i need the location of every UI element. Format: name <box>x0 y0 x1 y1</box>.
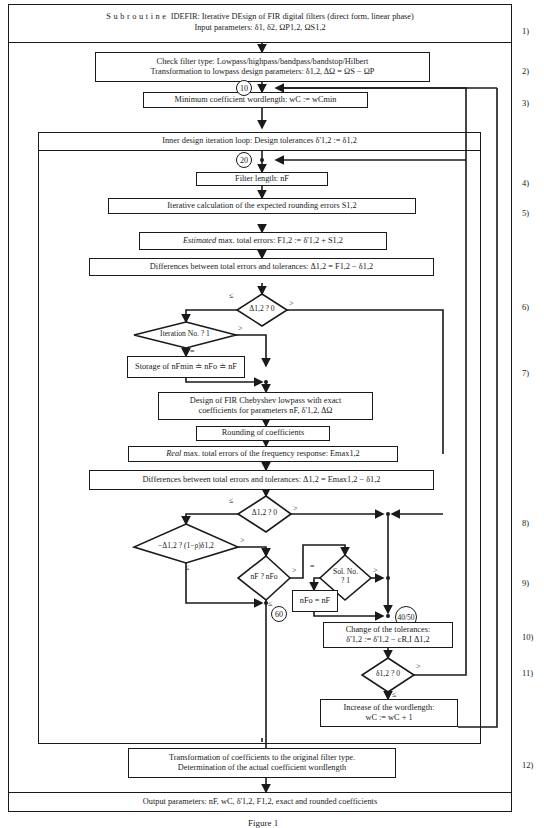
step-number-2: 2) <box>522 66 529 76</box>
filter-length-box: Filter length: nF <box>196 172 328 186</box>
label-gt-11: > <box>416 663 421 671</box>
estimated-label: Estimated <box>183 236 216 245</box>
change-text-1: Change of the tolerances: <box>346 625 431 635</box>
label-le-rho: ≤ <box>185 564 189 572</box>
nfo-assign-box: nFo = nF <box>292 590 338 612</box>
rounding-errors-box: Iterative calculation of the expected ro… <box>108 198 416 214</box>
nf-text: nF ? nFo <box>238 573 290 582</box>
estimated-errors-box: Estimated max. total errors: F1,2 := δ'1… <box>139 232 387 250</box>
transformation-text-2: Determination of the actual coefficient … <box>178 763 346 773</box>
inner-loop-text: Inner design iteration loop: Design tole… <box>162 136 357 147</box>
iteration-text: Iteration No. ? 1 <box>134 330 236 339</box>
label-eq-iter: = <box>190 348 195 356</box>
rho-text: −Δ1,2 ? (1−ρ)δ1,2 <box>134 542 238 551</box>
step-number-12: 12) <box>522 760 533 770</box>
step-number-1: 1) <box>522 26 529 36</box>
label-gt-8: > <box>293 505 298 513</box>
subroutine-label: Subroutine <box>106 12 168 21</box>
label-eq-sol: = <box>310 563 315 571</box>
differences-box-2: Differences between total errors and tol… <box>89 470 434 490</box>
increase-wordlength-box: Increase of the wordlength: wC := wC + 1 <box>320 699 458 727</box>
check-filter-type-box: Check filter type: Lowpass/highpass/band… <box>95 52 430 82</box>
transformation-text-1: Transformation of coefficients to the or… <box>169 753 355 763</box>
differences-text-1: Differences between total errors and tol… <box>150 262 373 272</box>
label-gt-6: > <box>289 300 294 308</box>
connector-20: 20 <box>236 152 252 168</box>
real-label: Real <box>166 449 181 458</box>
filter-length-text: Filter length: nF <box>235 174 289 184</box>
label-gt-sol: > <box>373 567 378 575</box>
change-tolerances-box: Change of the tolerances: δ'1,2 := δ'1,2… <box>323 622 453 648</box>
design-text-2: coefficients for parameters nF, δ'1,2, Δ… <box>198 406 332 416</box>
decision-11-text: δ1,2 ? 0 <box>362 670 414 679</box>
step-number-11: 11) <box>522 668 533 678</box>
subroutine-title: IDEFIR: Iterative DEsign of FIR digital … <box>171 12 414 21</box>
increase-text-2: wC := wC + 1 <box>365 713 412 723</box>
step-number-9: 9) <box>522 578 529 588</box>
header-divider <box>8 42 512 43</box>
step-number-8: 8) <box>522 518 529 528</box>
design-box: Design of FIR Chebyshev lowpass with exa… <box>158 392 373 420</box>
storage-text: Storage of nFmin ≐ nFo ≐ nF <box>135 362 237 372</box>
step-number-10: 10) <box>522 632 533 642</box>
label-gt-nf: > <box>292 567 297 575</box>
differences-box-1: Differences between total errors and tol… <box>89 258 434 276</box>
figure-caption: Figure 1 <box>248 818 278 828</box>
rounding-errors-text: Iterative calculation of the expected ro… <box>167 201 356 211</box>
differences-text-2: Differences between total errors and tol… <box>142 475 380 485</box>
storage-box: Storage of nFmin ≐ nFo ≐ nF <box>127 356 245 378</box>
nfo-assign-text: nFo = nF <box>300 596 331 606</box>
label-gt-rho: > <box>240 537 245 545</box>
increase-text-1: Increase of the wordlength: <box>344 703 435 713</box>
rounding-text: Rounding of coefficients <box>222 428 304 438</box>
input-parameters: Input parameters: δ1, δ2, ΩP1,2, ΩS1,2 <box>194 23 325 34</box>
rounding-box: Rounding of coefficients <box>196 426 330 441</box>
step-number-4: 4) <box>522 178 529 188</box>
label-le-6: ≤ <box>229 292 233 300</box>
label-le-8: ≤ <box>229 497 233 505</box>
real-errors-text: max. total errors of the frequency respo… <box>181 449 359 458</box>
change-text-2: δ'1,2 := δ'1,2 − cR,I Δ1,2 <box>346 635 429 645</box>
label-gt-iter: > <box>238 325 243 333</box>
sol-text-2: ? 1 <box>320 577 371 586</box>
step-number-7: 7) <box>522 368 529 378</box>
min-wordlength-text: Minimum coefficient wordlength: wC := wC… <box>175 95 337 105</box>
inner-loop-header: Inner design iteration loop: Design tole… <box>38 132 481 150</box>
label-le-11: ≤ <box>392 691 396 699</box>
step-number-3: 3) <box>522 98 529 108</box>
transformation-text: Transformation to lowpass design paramet… <box>151 67 375 77</box>
connector-60: 60 <box>271 606 287 622</box>
inner-frame-divider <box>38 150 481 151</box>
estimated-errors-text: max. total errors: F1,2 := δ'1,2 + S1,2 <box>216 236 343 245</box>
step-number-5: 5) <box>522 208 529 218</box>
transformation-box: Transformation of coefficients to the or… <box>128 748 396 778</box>
output-text: Output parameters: nF, wC, δ'1,2, F1,2, … <box>143 797 377 808</box>
decision-6-text: Δ1,2 ? 0 <box>237 305 287 314</box>
decision-8-text: Δ1,2 ? 0 <box>238 509 291 518</box>
output-parameters: Output parameters: nF, wC, δ'1,2, F1,2, … <box>8 792 512 812</box>
sol-text: Sol. No. ? 1 <box>320 568 371 585</box>
check-filter-type-text: Check filter type: Lowpass/highpass/band… <box>157 57 369 67</box>
subroutine-header: Subroutine IDEFIR: Iterative DEsign of F… <box>8 4 512 42</box>
design-text-1: Design of FIR Chebyshev lowpass with exa… <box>190 396 342 406</box>
connector-10: 10 <box>236 80 252 96</box>
min-wordlength-box: Minimum coefficient wordlength: wC := wC… <box>143 92 368 108</box>
step-number-6: 6) <box>522 302 529 312</box>
label-le-nf: ≤ <box>268 600 272 608</box>
real-errors-box: Real max. total errors of the frequency … <box>128 446 398 462</box>
